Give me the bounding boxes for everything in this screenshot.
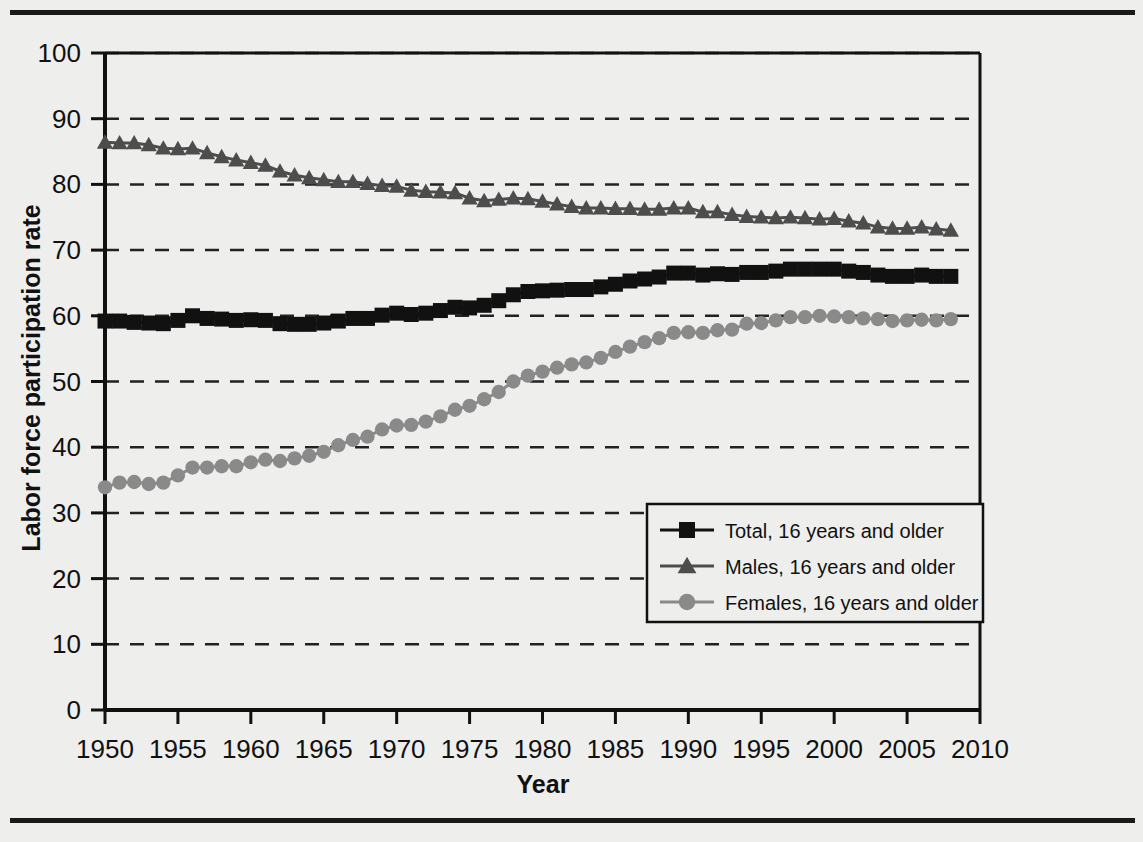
data-point-circle [404, 418, 418, 432]
data-point-square [433, 303, 448, 318]
data-point-circle [710, 323, 724, 337]
x-tick-label: 2010 [951, 734, 1009, 764]
data-point-circle [696, 326, 710, 340]
data-point-circle [200, 460, 214, 474]
y-tick-label: 70 [52, 235, 81, 265]
data-point-square [798, 262, 813, 277]
data-point-square [185, 308, 200, 323]
data-point-circle [667, 326, 681, 340]
series-circle [98, 309, 958, 495]
data-point-square [404, 307, 419, 322]
data-point-square [593, 279, 608, 294]
data-point-square [302, 317, 317, 332]
data-point-circle [740, 317, 754, 331]
data-point-square [200, 311, 215, 326]
x-tick-label: 1995 [732, 734, 790, 764]
data-point-square [418, 306, 433, 321]
data-point-circle [608, 345, 622, 359]
data-point-circle [346, 433, 360, 447]
data-point-square [725, 267, 740, 282]
data-point-circle [448, 403, 462, 417]
data-point-square [127, 315, 142, 330]
x-tick-label: 1990 [659, 734, 717, 764]
y-tick-label: 0 [67, 695, 81, 725]
data-point-square [681, 266, 696, 281]
x-tick-label: 1950 [76, 734, 134, 764]
data-point-square [564, 282, 579, 297]
y-tick-label: 100 [38, 38, 81, 68]
x-tick-label: 1965 [295, 734, 353, 764]
data-point-circle [623, 340, 637, 354]
data-point-circle [142, 477, 156, 491]
data-point-circle [331, 438, 345, 452]
data-point-circle [273, 454, 287, 468]
y-tick-label: 40 [52, 432, 81, 462]
series-line [105, 142, 951, 230]
data-point-square [914, 268, 929, 283]
x-tick-label: 1975 [441, 734, 499, 764]
data-point-square [885, 269, 900, 284]
x-tick-label: 2005 [878, 734, 936, 764]
data-point-square [827, 262, 842, 277]
data-point-circle [842, 310, 856, 324]
data-point-circle [900, 313, 914, 327]
data-point-square [491, 293, 506, 308]
data-point-square [812, 262, 827, 277]
data-point-square [679, 522, 695, 538]
data-point-square [389, 306, 404, 321]
data-point-square [943, 269, 958, 284]
data-point-circle [462, 399, 476, 413]
series-triangle [97, 134, 959, 237]
data-point-square [695, 268, 710, 283]
x-tick-label: 2000 [805, 734, 863, 764]
data-point-square [637, 272, 652, 287]
data-point-circle [812, 309, 826, 323]
data-point-square [856, 265, 871, 280]
data-point-square [579, 282, 594, 297]
data-point-square [258, 313, 273, 328]
data-point-square [652, 270, 667, 285]
data-point-square [550, 283, 565, 298]
data-point-square [360, 311, 375, 326]
data-point-circle [565, 357, 579, 371]
data-point-circle [637, 335, 651, 349]
x-axis-title: Year [517, 770, 570, 798]
data-point-square [666, 266, 681, 281]
y-tick-label: 30 [52, 498, 81, 528]
legend-item-label: Total, 16 years and older [725, 520, 944, 542]
data-point-square [273, 316, 288, 331]
data-point-circle [375, 422, 389, 436]
data-point-circle [871, 312, 885, 326]
x-tick-label: 1955 [149, 734, 207, 764]
data-point-circle [492, 385, 506, 399]
data-point-circle [506, 374, 520, 388]
data-point-circle [929, 313, 943, 327]
data-point-circle [725, 322, 739, 336]
data-point-square [623, 273, 638, 288]
data-point-square [448, 300, 463, 315]
data-point-square [112, 314, 127, 329]
data-point-square [243, 312, 258, 327]
data-point-square [462, 300, 477, 315]
data-point-square [345, 311, 360, 326]
data-point-circle [944, 312, 958, 326]
data-point-square [783, 262, 798, 277]
data-point-circle [185, 460, 199, 474]
y-axis-title: Labor force participation rate [17, 204, 45, 551]
data-point-circle [769, 313, 783, 327]
data-point-circle [156, 476, 170, 490]
data-point-circle [827, 309, 841, 323]
y-tick-label: 90 [52, 104, 81, 134]
data-point-square [535, 283, 550, 298]
data-point-square [739, 265, 754, 280]
data-point-square [331, 314, 346, 329]
data-point-square [477, 298, 492, 313]
data-point-circle [521, 368, 535, 382]
data-point-square [229, 313, 244, 328]
data-point-circle [915, 313, 929, 327]
data-point-circle [535, 364, 549, 378]
data-point-circle [229, 459, 243, 473]
data-point-circle [798, 310, 812, 324]
y-tick-label: 10 [52, 629, 81, 659]
data-point-square [170, 313, 185, 328]
